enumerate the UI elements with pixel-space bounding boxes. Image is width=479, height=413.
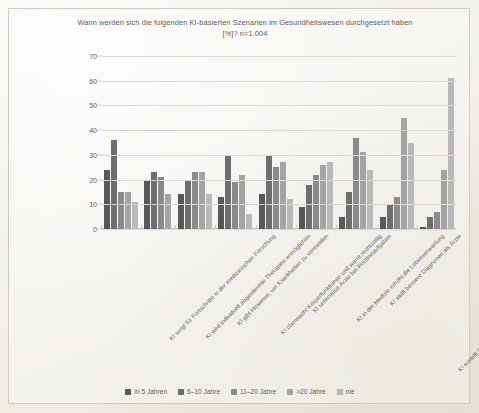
gridline	[102, 155, 456, 156]
bar	[387, 204, 393, 229]
legend-label: >20 Jahre	[296, 388, 326, 395]
bar	[165, 194, 171, 229]
bar	[151, 172, 157, 229]
legend-item[interactable]: >20 Jahre	[287, 388, 326, 395]
legend-label: nie	[346, 388, 355, 395]
x-axis-label: KI erstellt Diagnosen ohne menschliches …	[457, 233, 479, 373]
bar-group	[144, 56, 171, 229]
legend-swatch-icon	[125, 389, 131, 395]
bar	[266, 155, 272, 229]
y-axis-tick-label: 50	[89, 102, 97, 109]
gridline	[102, 56, 456, 57]
legend-swatch-icon	[287, 389, 293, 395]
bar	[118, 192, 124, 229]
bar-group	[299, 56, 333, 229]
y-axis-tick-mark	[97, 154, 102, 155]
legend-item[interactable]: 6–10 Jahre	[178, 388, 220, 395]
bar	[280, 162, 286, 229]
bar	[434, 212, 440, 229]
bar	[178, 194, 184, 229]
bar	[339, 217, 345, 229]
chart-card: Wann werden sich die folgenden KI-basier…	[8, 8, 470, 404]
bar-group	[259, 56, 293, 229]
bar	[125, 192, 131, 229]
bar-group	[218, 56, 252, 229]
gridline	[102, 105, 456, 106]
bar	[218, 197, 224, 229]
bar	[313, 175, 319, 229]
bar	[306, 185, 312, 229]
bar	[448, 78, 454, 229]
x-axis-label: KI stellt bessere Diagnosen als Ärzte	[389, 233, 463, 307]
bar	[246, 214, 252, 229]
bar	[206, 194, 212, 229]
legend-swatch-icon	[178, 389, 184, 395]
bar	[273, 167, 279, 229]
y-axis-tick-mark	[97, 130, 102, 131]
bar	[353, 138, 359, 229]
bar-groups	[102, 56, 456, 229]
y-axis-tick-label: 30	[89, 151, 97, 158]
bar	[380, 217, 386, 229]
bar	[320, 165, 326, 229]
y-axis-tick-label: 20	[89, 176, 97, 183]
bar	[225, 155, 231, 229]
legend-item[interactable]: nie	[337, 388, 355, 395]
bar	[199, 172, 205, 229]
y-axis-tick-mark	[97, 105, 102, 106]
gridline	[102, 180, 456, 181]
gridline	[102, 130, 456, 131]
legend-label: 6–10 Jahre	[187, 388, 220, 395]
gridline	[102, 229, 456, 230]
bar	[346, 192, 352, 229]
plot-area: 010203040506070 KI sorgt für Fortschritt…	[9, 9, 471, 405]
bar	[360, 152, 366, 229]
bar	[132, 202, 138, 229]
bar	[427, 217, 433, 229]
legend-item[interactable]: 11–20 Jahre	[231, 388, 276, 395]
bar	[158, 177, 164, 229]
bar	[401, 118, 407, 229]
chart-legend: in 5 Jahren6–10 Jahre11–20 Jahre>20 Jahr…	[9, 388, 471, 395]
bar	[394, 197, 400, 229]
y-axis-tick-label: 10	[89, 201, 97, 208]
y-axis-tick-mark	[97, 80, 102, 81]
y-axis-tick-label: 40	[89, 127, 97, 134]
bar	[111, 140, 117, 229]
bar-group	[380, 56, 414, 229]
legend-swatch-icon	[231, 389, 237, 395]
y-axis-tick-mark	[97, 56, 102, 57]
bar-group	[178, 56, 212, 229]
y-axis-tick-label: 70	[89, 53, 97, 60]
legend-item[interactable]: in 5 Jahren	[125, 388, 167, 395]
bar-group	[420, 56, 454, 229]
bar-group	[104, 56, 138, 229]
bar	[192, 172, 198, 229]
y-axis-tick-mark	[97, 204, 102, 205]
bar	[239, 175, 245, 229]
legend-label: in 5 Jahren	[134, 388, 167, 395]
bar-group	[339, 56, 373, 229]
bar	[259, 194, 265, 229]
bar	[232, 182, 238, 229]
bar	[299, 207, 305, 229]
legend-swatch-icon	[337, 389, 343, 395]
plot-canvas: 010203040506070	[102, 56, 456, 229]
y-axis-tick-mark	[97, 179, 102, 180]
y-axis-tick-label: 60	[89, 77, 97, 84]
bar	[327, 162, 333, 229]
legend-label: 11–20 Jahre	[240, 388, 276, 395]
gridline	[102, 81, 456, 82]
gridline	[102, 204, 456, 205]
y-axis-tick-mark	[97, 229, 102, 230]
